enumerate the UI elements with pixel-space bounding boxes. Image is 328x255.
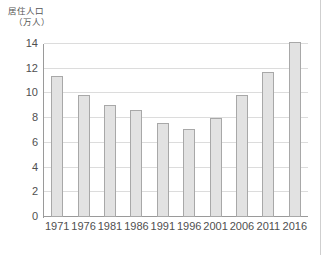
page-margin-rule	[320, 0, 321, 255]
x-axis-tick-labels: 1971197619811986199119962001200620112016	[0, 0, 328, 255]
x-tick-label-2016: 2016	[279, 220, 311, 232]
bar-chart-figure: 居住人口 （万人） 02468101214 197119761981198619…	[0, 0, 328, 255]
